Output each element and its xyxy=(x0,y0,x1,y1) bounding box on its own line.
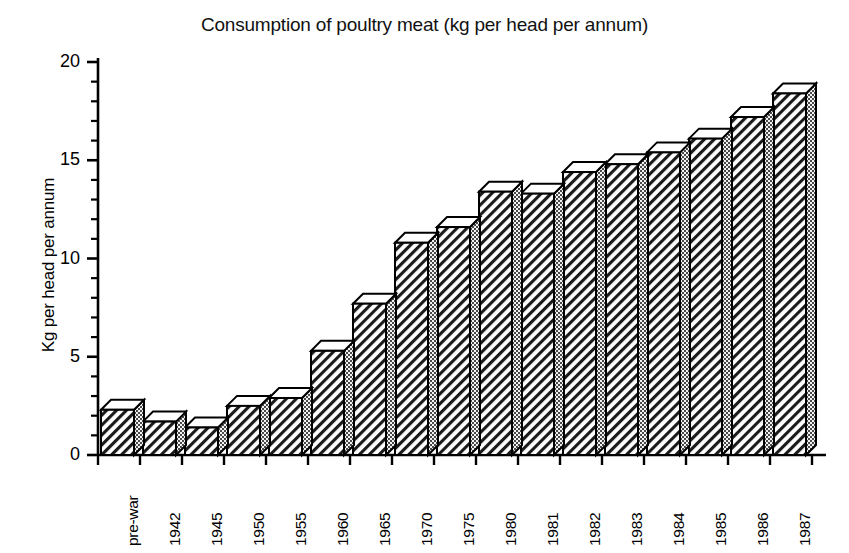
bar-side-face xyxy=(428,233,438,455)
bar-front-face xyxy=(437,227,470,455)
bar-front-face xyxy=(563,172,596,455)
bar xyxy=(227,396,270,455)
bar-side-face xyxy=(470,217,480,455)
x-tick-label: 1955 xyxy=(293,513,309,546)
poultry-consumption-bar-chart: Consumption of poultry meat (kg per head… xyxy=(0,0,849,553)
bar xyxy=(773,83,816,455)
bar-side-face xyxy=(554,184,564,455)
chart-plot-area xyxy=(0,0,849,553)
bar-front-face xyxy=(773,93,806,455)
bar xyxy=(353,294,396,455)
bar-side-face xyxy=(344,341,354,455)
bar-front-face xyxy=(269,398,302,455)
x-tick-label: pre-war xyxy=(125,496,141,546)
bar-side-face xyxy=(386,294,396,455)
bar-front-face xyxy=(605,164,638,455)
x-tick-label: 1985 xyxy=(713,513,729,546)
x-tick-label: 1984 xyxy=(671,513,687,546)
x-tick-label: 1950 xyxy=(251,513,267,546)
bar-side-face xyxy=(722,129,732,455)
bar xyxy=(563,162,606,455)
bar xyxy=(689,129,732,455)
bar-front-face xyxy=(101,410,134,455)
x-tick-label: 1986 xyxy=(755,513,771,546)
bar-side-face xyxy=(764,107,774,455)
bar xyxy=(395,233,438,455)
bar-front-face xyxy=(479,192,512,455)
bar xyxy=(647,142,690,455)
bar xyxy=(269,388,312,455)
bar-front-face xyxy=(521,194,554,455)
bar-side-face xyxy=(302,388,312,455)
bar xyxy=(521,184,564,455)
bar xyxy=(479,182,522,455)
x-tick-label: 1982 xyxy=(587,513,603,546)
x-tick-label: 1983 xyxy=(629,513,645,546)
bar-front-face xyxy=(731,117,764,455)
x-tick-label: 1981 xyxy=(545,513,561,546)
bar-front-face xyxy=(353,304,386,455)
x-tick-label: 1965 xyxy=(377,513,393,546)
bar xyxy=(437,217,480,455)
bar-side-face xyxy=(638,154,648,455)
bar xyxy=(185,417,228,455)
bar xyxy=(143,412,186,455)
bar-front-face xyxy=(647,152,680,455)
x-tick-label: 1945 xyxy=(209,513,225,546)
x-tick-label: 1980 xyxy=(503,513,519,546)
chart-bars xyxy=(101,83,816,455)
bar xyxy=(605,154,648,455)
bar-side-face xyxy=(596,162,606,455)
bar-side-face xyxy=(680,142,690,455)
bar-front-face xyxy=(143,422,176,455)
x-tick-label: 1942 xyxy=(167,513,183,546)
bar-front-face xyxy=(311,351,344,455)
bar-front-face xyxy=(689,139,722,455)
bar-front-face xyxy=(227,406,260,455)
bar xyxy=(311,341,354,455)
bar-side-face xyxy=(512,182,522,455)
bar-front-face xyxy=(395,243,428,455)
x-tick-label: 1987 xyxy=(797,513,813,546)
x-tick-label: 1960 xyxy=(335,513,351,546)
bar xyxy=(101,400,144,455)
x-tick-label: 1975 xyxy=(461,513,477,546)
bar-front-face xyxy=(185,427,218,455)
bar-side-face xyxy=(806,83,816,455)
x-tick-label: 1970 xyxy=(419,513,435,546)
bar xyxy=(731,107,774,455)
